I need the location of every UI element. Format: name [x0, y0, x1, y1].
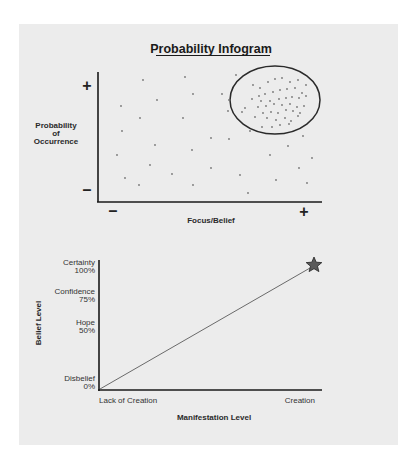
- x-tick-lack-of-creation: Lack of Creation: [99, 396, 157, 405]
- scatter-dot: [266, 117, 268, 119]
- scatter-dot: [305, 95, 307, 97]
- scatter-dot: [156, 99, 158, 101]
- cluster-ellipse: [230, 66, 320, 134]
- scatter-dot: [259, 87, 261, 89]
- scatter-dot: [273, 103, 275, 105]
- scatter-dot: [279, 89, 281, 91]
- scatter-dot: [291, 96, 293, 98]
- scatter-dot: [277, 112, 279, 114]
- scatter-dot: [298, 97, 300, 99]
- scatter-dot: [261, 126, 263, 128]
- scatter-dot: [182, 117, 184, 119]
- scatter-dot: [210, 137, 212, 139]
- chart-title: Probability Infogram: [150, 42, 272, 56]
- x-axis-label: Focus/Belief: [187, 216, 235, 225]
- scatter-dot: [254, 116, 256, 118]
- tick-confidence-value: 75%: [79, 295, 95, 304]
- scatter-dot: [228, 99, 230, 101]
- manifestation-level-label: Manifestation Level: [177, 413, 251, 422]
- scatter-dot: [241, 111, 243, 113]
- x-axis-low-sign: –: [109, 202, 118, 219]
- scatter-dot: [274, 78, 276, 80]
- scatter-dot: [251, 98, 253, 100]
- scatter-dot: [311, 157, 313, 159]
- scatter-dot: [116, 154, 118, 156]
- scatter-dot: [305, 84, 307, 86]
- scatter-dot: [289, 103, 291, 105]
- tick-certainty-value: 100%: [75, 266, 95, 275]
- scatter-dot: [138, 184, 140, 186]
- scatter-dot: [247, 192, 249, 194]
- tick-hope-value: 50%: [79, 326, 95, 335]
- scatter-dot: [267, 81, 269, 83]
- y-axis-high-sign: +: [82, 77, 91, 94]
- scatter-dot: [244, 107, 246, 109]
- scatter-dot: [297, 115, 299, 117]
- belief-level-label: Belief Level: [34, 301, 43, 345]
- scatter-dot: [298, 167, 300, 169]
- scatter-dot: [239, 174, 241, 176]
- scatter-dot: [294, 87, 296, 89]
- scatter-dot: [284, 117, 286, 119]
- scatter-dot: [149, 164, 151, 166]
- scatter-dot: [290, 120, 292, 122]
- scatter-dot: [299, 112, 301, 114]
- belief-chart: Certainty 100% Confidence 75% Hope 50% D…: [34, 257, 322, 422]
- scatter-dot: [154, 144, 156, 146]
- scatter-dot: [171, 173, 173, 175]
- scatter-dot: [228, 138, 230, 140]
- scatter-dot: [288, 123, 290, 125]
- scatter-dot: [278, 98, 280, 100]
- tick-disbelief-value: 0%: [83, 382, 95, 391]
- scatter-dot: [264, 93, 266, 95]
- y-axis-low-sign: –: [83, 181, 92, 198]
- scatter-dot: [269, 154, 271, 156]
- scatter-dot: [265, 105, 267, 107]
- scatter-dot: [292, 110, 294, 112]
- scatter-dot: [302, 135, 304, 137]
- scatter-dot: [258, 95, 260, 97]
- x-axis-high-sign: +: [299, 203, 308, 220]
- probability-chart: Probability Infogram + – – + Probability…: [34, 42, 322, 225]
- scatter-dot: [285, 97, 287, 99]
- scatter-dot: [306, 182, 308, 184]
- scatter-dot: [271, 126, 273, 128]
- scatter-dot: [275, 119, 277, 121]
- scatter-dot: [285, 109, 287, 111]
- scatter-dot: [275, 179, 277, 181]
- scatter-dot: [252, 84, 254, 86]
- scatter-dot: [257, 106, 259, 108]
- scatter-dot: [281, 104, 283, 106]
- scatter-dot: [303, 105, 305, 107]
- scatter-dot: [192, 93, 194, 95]
- scatter-dot: [297, 79, 299, 81]
- scatter-dot: [235, 74, 237, 76]
- scatter-dot: [289, 81, 291, 83]
- scatter-dot: [191, 149, 193, 151]
- x-tick-creation: Creation: [285, 396, 315, 405]
- scatter-dot: [296, 106, 298, 108]
- scatter-dot: [121, 130, 123, 132]
- scatter-dot: [281, 77, 283, 79]
- scatter-dot: [286, 88, 288, 90]
- scatter-dot: [269, 100, 271, 102]
- scatter-dot: [260, 100, 262, 102]
- scatter-dot: [270, 111, 272, 113]
- scatter-dot: [227, 110, 229, 112]
- scatter-dot: [221, 93, 223, 95]
- scatter-dot: [262, 112, 264, 114]
- scatter-dot: [272, 91, 274, 93]
- scatter-dot: [210, 167, 212, 169]
- belief-line: [100, 268, 310, 389]
- scatter-dot: [287, 145, 289, 147]
- scatter-dot: [184, 76, 186, 78]
- scatter-dot: [139, 117, 141, 119]
- scatter-dot: [249, 130, 251, 132]
- scatter-dot: [279, 124, 281, 126]
- scatter-dot: [124, 177, 126, 179]
- y-axis-label-line3: Occurrence: [34, 137, 79, 146]
- scatter-dot: [301, 92, 303, 94]
- scatter-dot: [120, 105, 122, 107]
- scatter-dot: [142, 79, 144, 81]
- infogram-canvas: Probability Infogram + – – + Probability…: [0, 0, 419, 467]
